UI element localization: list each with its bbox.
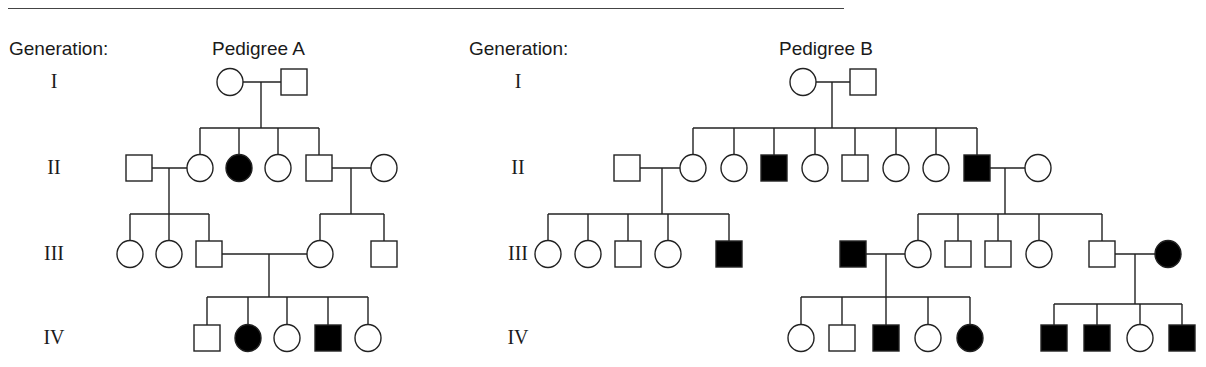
affected-male-square-icon bbox=[964, 155, 990, 181]
unaffected-female-circle-icon bbox=[535, 241, 561, 268]
unaffected-male-square-icon bbox=[850, 69, 876, 95]
unaffected-male-square-icon bbox=[194, 325, 220, 351]
unaffected-female-circle-icon bbox=[355, 325, 381, 352]
unaffected-female-circle-icon bbox=[655, 241, 681, 268]
unaffected-female-circle-icon bbox=[217, 69, 243, 96]
affected-female-circle-icon bbox=[235, 325, 261, 352]
individual-symbols bbox=[117, 69, 1195, 352]
unaffected-female-circle-icon bbox=[802, 155, 828, 182]
unaffected-male-square-icon bbox=[615, 241, 641, 267]
unaffected-male-square-icon bbox=[985, 241, 1011, 267]
unaffected-female-circle-icon bbox=[187, 155, 213, 182]
affected-male-square-icon bbox=[1041, 325, 1067, 351]
affected-male-square-icon bbox=[315, 325, 341, 351]
unaffected-female-circle-icon bbox=[788, 325, 814, 352]
unaffected-female-circle-icon bbox=[883, 155, 909, 182]
unaffected-female-circle-icon bbox=[371, 155, 397, 182]
affected-female-circle-icon bbox=[226, 155, 252, 182]
unaffected-female-circle-icon bbox=[274, 325, 300, 352]
unaffected-female-circle-icon bbox=[905, 241, 931, 268]
unaffected-male-square-icon bbox=[829, 325, 855, 351]
pedigree-diagram bbox=[0, 0, 1206, 367]
unaffected-female-circle-icon bbox=[721, 155, 747, 182]
unaffected-male-square-icon bbox=[196, 241, 222, 267]
unaffected-male-square-icon bbox=[1089, 241, 1115, 267]
unaffected-male-square-icon bbox=[945, 241, 971, 267]
affected-male-square-icon bbox=[840, 241, 866, 267]
affected-male-square-icon bbox=[873, 325, 899, 351]
unaffected-female-circle-icon bbox=[1025, 155, 1051, 182]
unaffected-female-circle-icon bbox=[680, 155, 706, 182]
unaffected-female-circle-icon bbox=[1026, 241, 1052, 268]
unaffected-male-square-icon bbox=[614, 155, 640, 181]
unaffected-female-circle-icon bbox=[1127, 325, 1153, 352]
unaffected-female-circle-icon bbox=[117, 241, 143, 268]
unaffected-female-circle-icon bbox=[265, 155, 291, 182]
unaffected-male-square-icon bbox=[371, 241, 397, 267]
unaffected-female-circle-icon bbox=[790, 69, 816, 96]
affected-male-square-icon bbox=[1084, 325, 1110, 351]
unaffected-female-circle-icon bbox=[923, 155, 949, 182]
unaffected-female-circle-icon bbox=[575, 241, 601, 268]
unaffected-male-square-icon bbox=[281, 69, 307, 95]
unaffected-female-circle-icon bbox=[915, 325, 941, 352]
unaffected-male-square-icon bbox=[306, 155, 332, 181]
unaffected-male-square-icon bbox=[126, 155, 152, 181]
unaffected-female-circle-icon bbox=[307, 241, 333, 268]
unaffected-female-circle-icon bbox=[156, 241, 182, 268]
affected-female-circle-icon bbox=[1155, 241, 1181, 268]
unaffected-male-square-icon bbox=[842, 155, 868, 181]
affected-male-square-icon bbox=[761, 155, 787, 181]
affected-male-square-icon bbox=[1169, 325, 1195, 351]
affected-male-square-icon bbox=[716, 241, 742, 267]
affected-female-circle-icon bbox=[957, 325, 983, 352]
relationship-lines bbox=[130, 82, 1182, 325]
